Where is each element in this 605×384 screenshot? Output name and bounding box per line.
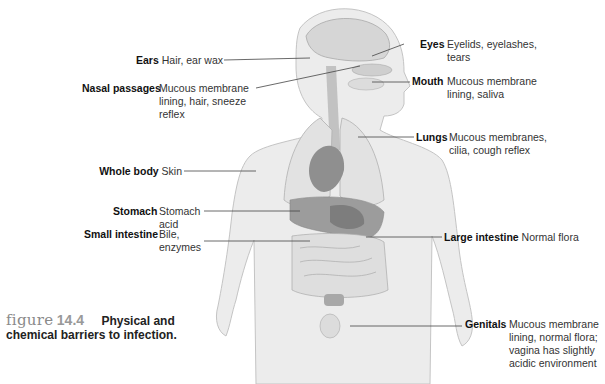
label-desc: vagina has slightly xyxy=(509,344,599,357)
region-name: Large intestine xyxy=(444,231,519,243)
label-eyes-desc: Eyelids, eyelashes, tears xyxy=(447,38,537,64)
label-desc: Hair, ear wax xyxy=(162,54,223,66)
region-name: Eyes xyxy=(420,38,445,50)
region-name: Mouth xyxy=(412,75,444,87)
label-eyes: Eyes xyxy=(420,38,445,51)
label-genitals: Genitals xyxy=(465,318,506,331)
label-desc: Normal flora xyxy=(522,231,579,243)
label-desc: tears xyxy=(447,51,537,64)
label-whole-body: Whole body Skin xyxy=(99,165,182,178)
label-desc: Mucous membranes, xyxy=(449,131,547,144)
region-name: Small intestine xyxy=(84,228,158,240)
caption-line-1: Physical and xyxy=(101,314,174,328)
mouth-region xyxy=(348,78,384,90)
bladder xyxy=(324,294,344,306)
label-small-intestine: Small intestine xyxy=(84,228,158,241)
intestines xyxy=(292,234,388,298)
label-mouth: Mouth xyxy=(412,75,444,88)
figure-number: 14.4 xyxy=(57,312,84,328)
region-name: Whole body xyxy=(99,165,159,177)
genital-region xyxy=(320,314,340,338)
label-stomach: Stomach xyxy=(113,205,157,218)
label-desc: lining, hair, sneeze xyxy=(159,95,249,108)
region-name: Lungs xyxy=(416,131,448,143)
label-desc: reflex xyxy=(159,108,249,121)
nasal-cavity xyxy=(352,64,392,76)
label-desc: Stomach xyxy=(159,205,200,218)
figure-stage: Ears Hair, ear wax Nasal passages Mucous… xyxy=(0,0,605,384)
label-desc: Bile, xyxy=(159,228,201,241)
label-desc: Eyelids, eyelashes, xyxy=(447,38,537,51)
region-name: Stomach xyxy=(113,205,157,217)
label-mouth-desc: Mucous membrane lining, saliva xyxy=(447,75,537,101)
label-desc: cilia, cough reflex xyxy=(449,144,547,157)
label-desc: enzymes xyxy=(159,241,201,254)
label-desc: Mucous membrane xyxy=(159,82,249,95)
label-large-intestine: Large intestine Normal flora xyxy=(444,231,579,244)
label-desc: lining, saliva xyxy=(447,88,537,101)
label-small-intestine-desc: Bile, enzymes xyxy=(159,228,201,254)
label-desc: acidic environment xyxy=(509,357,599,370)
figure-caption: figure 14.4 Physical and chemical barrie… xyxy=(6,313,177,342)
label-ears: Ears Hair, ear wax xyxy=(136,54,223,67)
label-desc: Mucous membrane xyxy=(509,318,599,331)
region-name: Ears xyxy=(136,54,159,66)
label-lungs: Lungs xyxy=(416,131,448,144)
caption-line-2: chemical barriers to infection. xyxy=(6,328,177,342)
label-genitals-desc: Mucous membrane lining, normal flora; va… xyxy=(509,318,599,370)
figure-word: figure xyxy=(6,311,53,329)
label-desc: Mucous membrane xyxy=(447,75,537,88)
region-name: Nasal passages xyxy=(82,82,161,94)
label-nasal-desc: Mucous membrane lining, hair, sneeze ref… xyxy=(159,82,249,121)
region-name: Genitals xyxy=(465,318,506,330)
label-nasal-passages: Nasal passages xyxy=(82,82,161,95)
label-desc: Skin xyxy=(162,165,182,177)
label-lungs-desc: Mucous membranes, cilia, cough reflex xyxy=(449,131,547,157)
label-desc: lining, normal flora; xyxy=(509,331,599,344)
